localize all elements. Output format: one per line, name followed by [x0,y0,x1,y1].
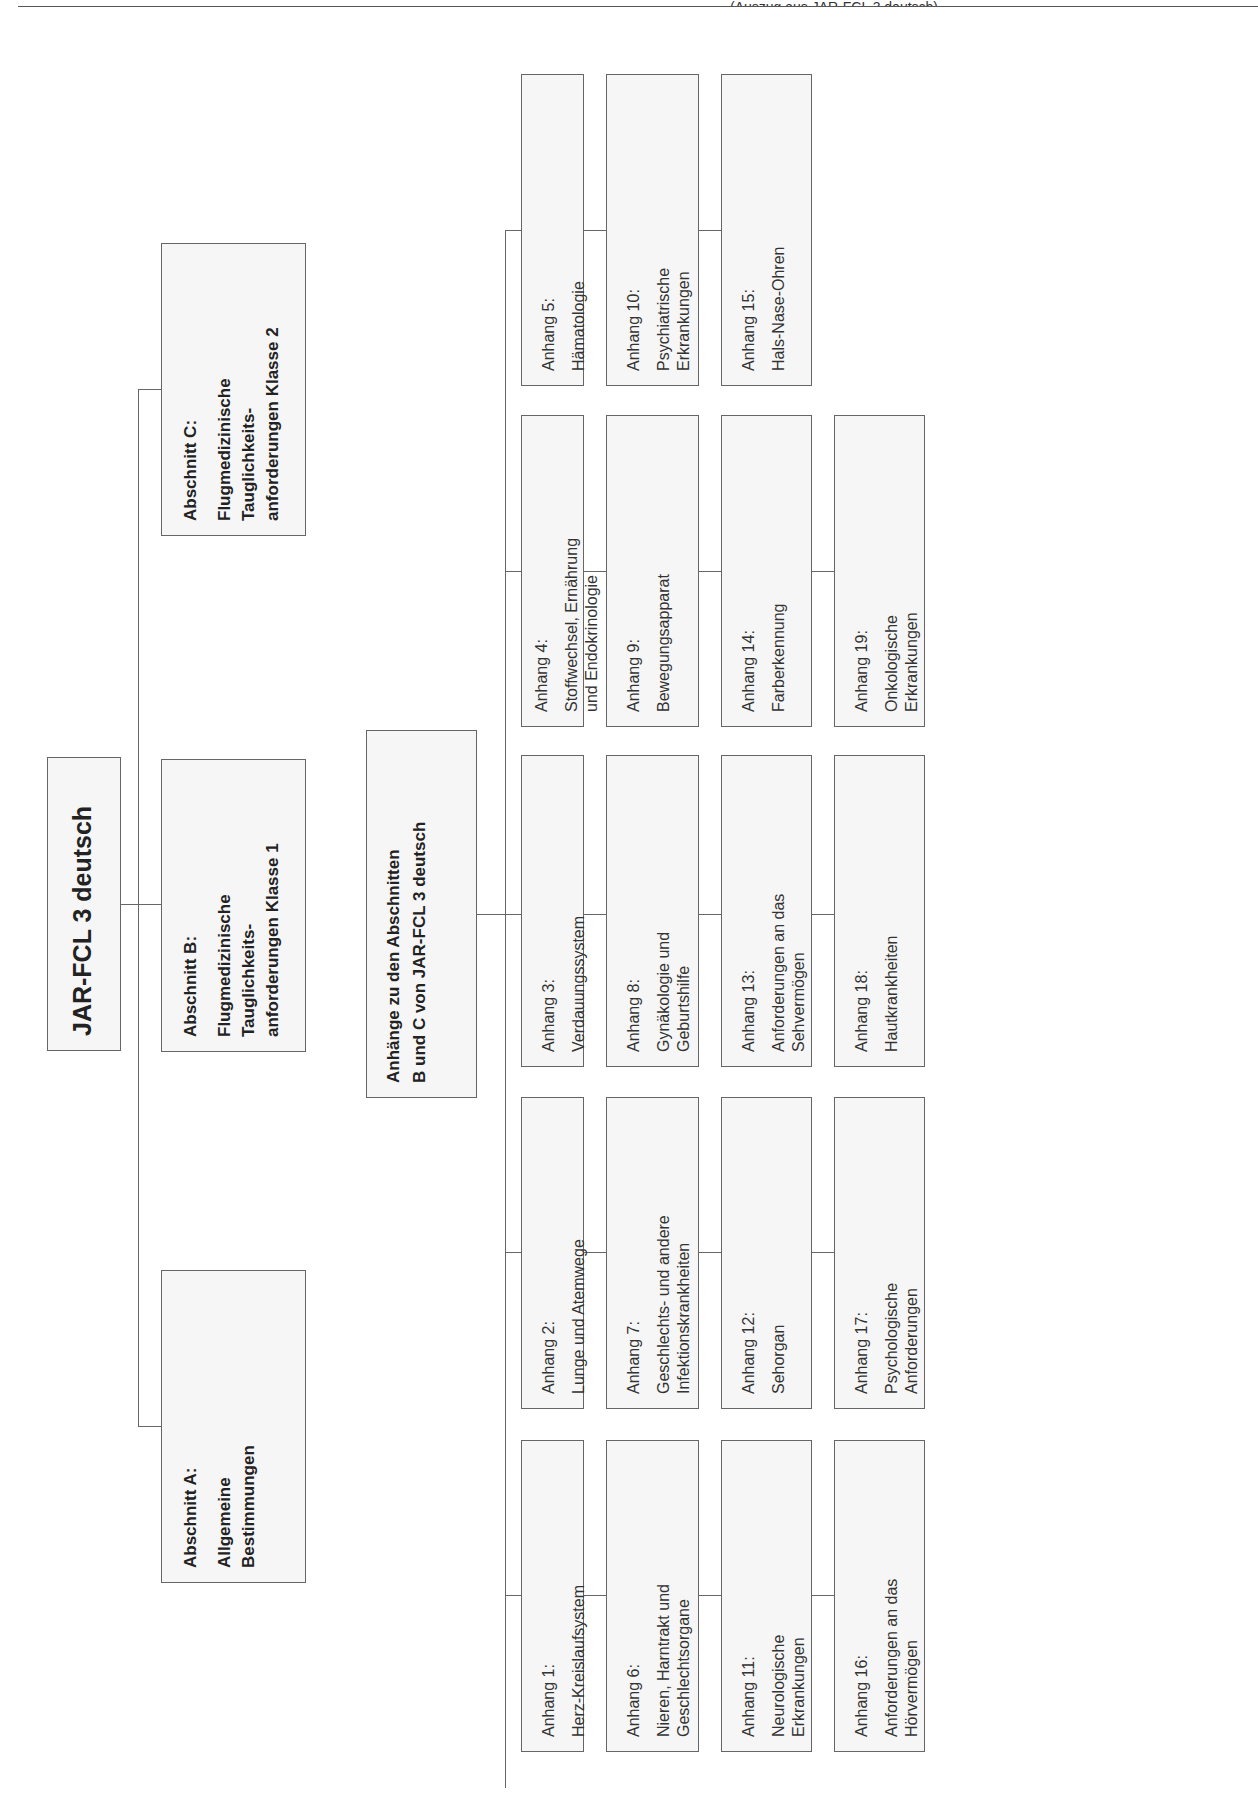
appendix-line: Onkologische [882,612,902,712]
connector-appendix-spine [505,230,506,1788]
appendix-box-15: Anhang 15: Hals-Nase-Ohren [721,74,812,386]
appendix-line: Neurologische [769,1635,789,1737]
connector [698,1595,721,1596]
section-c-heading: Abschnitt C: [179,327,203,521]
appendix-13-text: Anhang 13: Anforderungen an das Sehvermö… [739,894,809,1052]
appendix-18-text: Anhang 18: Hautkrankheiten [852,935,902,1052]
section-b-line: Tauglichkeits- [237,843,261,1037]
connector-root [121,904,161,905]
section-a-line: Allgemeine [213,1445,237,1568]
appendix-line: Erkrankungen [902,612,922,712]
appendix-label: Anhang 10: [624,268,644,371]
appendix-line: Verdauungssystem [569,916,589,1052]
appendix-line: Geschlechts- und andere [654,1215,674,1394]
header-text: (Auszug aus JAR-FCL 3 deutsch) [730,0,1150,6]
appendix-label: Anhang 7: [624,1215,644,1394]
appendix-11-text: Anhang 11: Neurologische Erkrankungen [739,1635,809,1737]
appendix-box-16: Anhang 16: Anforderungen an das Hörvermö… [834,1440,925,1752]
appendix-line: Gynäkologie und [654,932,674,1052]
connector [698,571,721,572]
appendix-box-10: Anhang 10: Psychiatrische Erkrankungen [606,74,699,386]
appendix-19-text: Anhang 19: Onkologische Erkrankungen [852,612,922,712]
appendix-line: Lunge und Atemwege [569,1239,589,1394]
appendix-line: Anforderungen an das [769,894,789,1052]
connector [811,1252,834,1253]
connector [698,230,721,231]
connector-row-1 [505,1595,521,1596]
connector-row-4 [505,571,521,572]
appendix-7-text: Anhang 7: Geschlechts- und andere Infekt… [624,1215,694,1394]
connector-section-c [138,389,161,390]
appendix-box-18: Anhang 18: Hautkrankheiten [834,755,925,1067]
appendix-8-text: Anhang 8: Gynäkologie und Geburtshilfe [624,932,694,1052]
connector-row-5 [505,230,521,231]
connector [583,230,606,231]
section-a-text: Abschnitt A: Allgemeine Bestimmungen [179,1445,261,1568]
connector [698,914,721,915]
appendix-group-box: Anhänge zu den Abschnitten B und C von J… [366,730,477,1098]
appendix-line: Infektionskrankheiten [674,1215,694,1394]
appendix-line: Nieren, Harntrakt und [654,1584,674,1737]
appendix-6-text: Anhang 6: Nieren, Harntrakt und Geschlec… [624,1584,694,1737]
appendix-3-text: Anhang 3: Verdauungssystem [539,916,589,1052]
appendix-box-4: Anhang 4: Stoffwechsel, Ernährung und En… [521,415,584,727]
appendix-line: Hörvermögen [902,1579,922,1737]
appendix-1-text: Anhang 1: Herz-Kreislaufsystem [539,1585,589,1737]
appendix-line: Geschlechtsorgane [674,1584,694,1737]
appendix-box-11: Anhang 11: Neurologische Erkrankungen [721,1440,812,1752]
appendix-label: Anhang 3: [539,916,559,1052]
appendix-label: Anhang 5: [539,281,559,371]
header-rule [18,6,1258,7]
appendix-line: Sehvermögen [789,894,809,1052]
section-b-line: anforderungen Klasse 1 [261,843,285,1037]
section-c-text: Abschnitt C: Flugmedizinische Tauglichke… [179,327,285,521]
section-a-box: Abschnitt A: Allgemeine Bestimmungen [161,1270,306,1583]
appendix-5-text: Anhang 5: Hämatologie [539,281,589,371]
connector [698,1252,721,1253]
appendix-group-text: Anhänge zu den Abschnitten B und C von J… [381,822,433,1083]
appendix-box-12: Anhang 12: Sehorgan [721,1097,812,1409]
connector-row-3 [505,914,521,915]
appendix-16-text: Anhang 16: Anforderungen an das Hörvermö… [852,1579,922,1737]
appendix-14-text: Anhang 14: Farberkennung [739,603,789,712]
appendix-label: Anhang 6: [624,1584,644,1737]
appendix-box-2: Anhang 2: Lunge und Atemwege [521,1097,584,1409]
section-c-line: Tauglichkeits- [237,327,261,521]
appendix-box-13: Anhang 13: Anforderungen an das Sehvermö… [721,755,812,1067]
connector [811,571,834,572]
appendix-label: Anhang 18: [852,935,872,1052]
connector-sections-spine [138,389,139,1427]
appendix-line: Psychiatrische [654,268,674,371]
appendix-12-text: Anhang 12: Sehorgan [739,1312,789,1394]
appendix-label: Anhang 4: [532,538,552,712]
appendix-17-text: Anhang 17: Psychologische Anforderungen [852,1283,922,1394]
section-c-line: anforderungen Klasse 2 [261,327,285,521]
connector [811,914,834,915]
appendix-label: Anhang 14: [739,603,759,712]
appendix-line: Erkrankungen [789,1635,809,1737]
section-b-box: Abschnitt B: Flugmedizinische Tauglichke… [161,759,306,1052]
appendix-line: Bewegungsapparat [654,574,674,712]
root-title: JAR-FCL 3 deutsch [68,806,97,1036]
appendix-line: Herz-Kreislaufsystem [569,1585,589,1737]
section-b-line: Flugmedizinische [213,843,237,1037]
appendix-box-3: Anhang 3: Verdauungssystem [521,755,584,1067]
appendix-box-8: Anhang 8: Gynäkologie und Geburtshilfe [606,755,699,1067]
section-a-heading: Abschnitt A: [179,1445,203,1568]
appendix-label: Anhang 8: [624,932,644,1052]
appendix-line: Hals-Nase-Ohren [769,247,789,371]
appendix-line: und Endokrinologie [582,538,602,712]
appendix-label: Anhang 12: [739,1312,759,1394]
appendix-group-line: Anhänge zu den Abschnitten [381,822,407,1083]
appendix-15-text: Anhang 15: Hals-Nase-Ohren [739,247,789,371]
appendix-label: Anhang 9: [624,574,644,712]
appendix-10-text: Anhang 10: Psychiatrische Erkrankungen [624,268,694,371]
appendix-label: Anhang 19: [852,612,872,712]
appendix-line: Hämatologie [569,281,589,371]
appendix-line: Psychologische [882,1283,902,1394]
connector-row-2 [505,1252,521,1253]
section-c-box: Abschnitt C: Flugmedizinische Tauglichke… [161,243,306,536]
appendix-line: Farberkennung [769,603,789,712]
appendix-box-6: Anhang 6: Nieren, Harntrakt und Geschlec… [606,1440,699,1752]
appendix-box-1: Anhang 1: Herz-Kreislaufsystem [521,1440,584,1752]
